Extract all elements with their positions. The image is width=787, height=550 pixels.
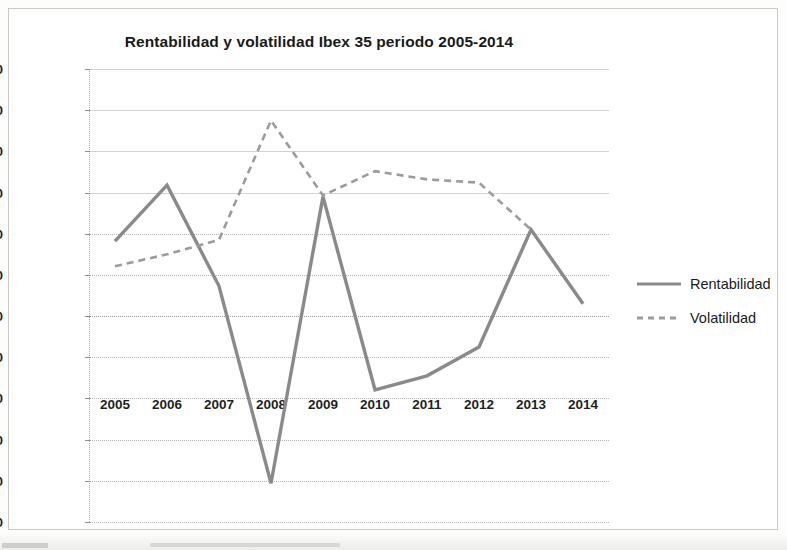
y-axis-label: -50,00 — [0, 515, 3, 530]
line-volatilidad — [115, 120, 531, 266]
legend-swatch-solid — [637, 279, 681, 289]
chart-title: Rentabilidad y volatilidad Ibex 35 perio… — [9, 33, 629, 51]
scan-artifact-middle — [150, 543, 340, 547]
y-axis-label: 30,00 — [0, 185, 3, 200]
y-axis-label: 60,00 — [0, 62, 3, 77]
y-axis-label: 0,00 — [0, 309, 3, 324]
plot-area: 60,0050,0040,0030,0020,0010,000,00-10,00… — [89, 69, 609, 522]
line-rentabilidad — [115, 185, 583, 483]
legend-item-volatilidad: Volatilidad — [637, 301, 787, 335]
scan-artifact-left — [2, 543, 48, 548]
series-layer — [89, 69, 609, 522]
scan-edge-shadow — [0, 532, 787, 550]
y-axis-label: 20,00 — [0, 226, 3, 241]
y-axis-label: -30,00 — [0, 432, 3, 447]
legend-label-rentabilidad: Rentabilidad — [690, 276, 771, 292]
y-axis-label: 50,00 — [0, 103, 3, 118]
legend-item-rentabilidad: Rentabilidad — [637, 267, 787, 301]
y-axis-label: -10,00 — [0, 350, 3, 365]
y-axis-label: -20,00 — [0, 391, 3, 406]
legend-label-volatilidad: Volatilidad — [690, 310, 756, 326]
y-axis-label: -40,00 — [0, 473, 3, 488]
chart-legend: Rentabilidad Volatilidad — [637, 267, 787, 335]
chart-frame: Rentabilidad y volatilidad Ibex 35 perio… — [8, 8, 778, 530]
y-axis-label: 40,00 — [0, 144, 3, 159]
y-axis-label: 10,00 — [0, 267, 3, 282]
gridline — [89, 522, 609, 523]
scanned-page: Rentabilidad y volatilidad Ibex 35 perio… — [0, 0, 787, 550]
y-axis-tick — [85, 522, 90, 523]
legend-swatch-dashed — [637, 313, 681, 323]
